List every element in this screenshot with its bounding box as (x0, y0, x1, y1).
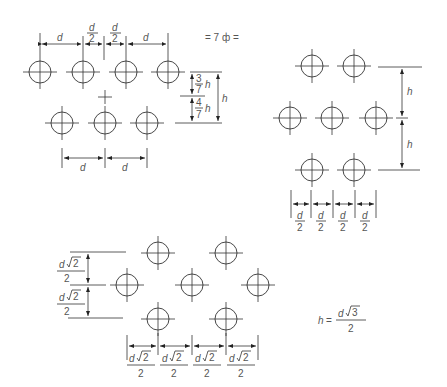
dim-label-d: d (143, 32, 149, 43)
svg-text:2: 2 (318, 222, 324, 233)
svg-text:2: 2 (362, 222, 368, 233)
dim-label-d-half-den: 2 (89, 33, 95, 44)
frac-d-sqrt2-half: d 2 2 (193, 351, 221, 379)
formula-h: h = d 3 2 (318, 306, 366, 334)
hole-icon (209, 236, 243, 270)
hole-icon (295, 153, 329, 187)
hole-icon (295, 49, 329, 83)
hole-icon (66, 55, 100, 89)
hole-icon (209, 302, 243, 336)
hole-icon (110, 268, 144, 302)
hole-icon (175, 268, 209, 302)
frac-7: 7 (196, 84, 202, 95)
panel-hex-rows: h h d 2 d 2 d 2 d (273, 49, 422, 233)
svg-text:d: d (162, 353, 168, 364)
formula-root-3: 3 (352, 307, 358, 318)
svg-text:d: d (340, 210, 346, 221)
panel-diamond: d 2 2 d 2 2 d 2 2 (57, 236, 275, 379)
formula-den-2: 2 (348, 323, 354, 334)
dim-label-d-half-num: d (89, 22, 95, 33)
frac-d-half: d 2 (295, 210, 305, 233)
dim-label-d: d (80, 162, 86, 173)
svg-text:2: 2 (143, 352, 149, 363)
svg-text:d: d (229, 353, 235, 364)
technical-diagram: d d 2 d 2 d = 7 ф = 3 7 h 4 7 h h (0, 0, 447, 387)
svg-text:=: = (326, 315, 332, 326)
svg-text:2: 2 (171, 368, 177, 379)
svg-text:d: d (195, 353, 201, 364)
formula-num-d: d (338, 308, 344, 319)
hole-icon (273, 101, 307, 135)
svg-text:2: 2 (73, 291, 79, 302)
svg-text:2: 2 (64, 306, 70, 317)
svg-text:d: d (129, 353, 135, 364)
dim-label-h: h (407, 139, 413, 150)
svg-text:d: d (318, 210, 324, 221)
svg-text:d: d (297, 210, 303, 221)
svg-text:2: 2 (297, 222, 303, 233)
frac-7: 7 (196, 109, 202, 120)
svg-text:d: d (362, 210, 368, 221)
hole-icon (141, 236, 175, 270)
hole-icon (141, 302, 175, 336)
frac-d-half: d 2 (360, 210, 370, 233)
svg-text:2: 2 (238, 368, 244, 379)
frac-d-sqrt2-half: d 2 2 (160, 351, 188, 379)
frac-d-half: d 2 (316, 210, 326, 233)
dim-label-h: h (222, 93, 228, 104)
frac-d-sqrt2-half: d 2 2 (127, 351, 155, 379)
frac-d-sqrt2-half: d 2 2 (57, 290, 85, 317)
formula-lhs-h: h (318, 315, 324, 326)
dim-label-d-half-den: 2 (112, 33, 118, 44)
hole-icon (45, 106, 79, 140)
svg-text:2: 2 (138, 368, 144, 379)
dim-label-d: d (122, 162, 128, 173)
dim-label-h: h (205, 79, 211, 90)
hole-icon (130, 106, 164, 140)
hole-icon (359, 101, 393, 135)
svg-text:2: 2 (204, 368, 210, 379)
hole-icon (315, 101, 349, 135)
frac-d-sqrt2-half: d 2 2 (227, 351, 255, 379)
svg-text:2: 2 (176, 352, 182, 363)
note-7-phi: = 7 ф = (205, 32, 239, 43)
svg-text:2: 2 (340, 222, 346, 233)
dim-label-h: h (407, 86, 413, 97)
panel-square-offset: d d 2 d 2 d = 7 ф = 3 7 h 4 7 h h (23, 22, 239, 173)
hole-icon (109, 55, 143, 89)
frac-d-half: d 2 (338, 210, 348, 233)
hole-icon (151, 55, 185, 89)
hole-icon (241, 268, 275, 302)
svg-text:2: 2 (209, 352, 215, 363)
dim-label-d: d (57, 32, 63, 43)
svg-text:2: 2 (73, 258, 79, 269)
svg-text:d: d (59, 292, 65, 303)
frac-3: 3 (196, 73, 202, 84)
frac-4: 4 (196, 97, 202, 108)
svg-text:2: 2 (243, 352, 249, 363)
frac-d-sqrt2-half: d 2 2 (57, 257, 85, 284)
center-mark-icon (98, 90, 112, 104)
hole-icon (337, 153, 371, 187)
svg-text:d: d (59, 259, 65, 270)
dim-label-d-half-num: d (112, 22, 118, 33)
hole-icon (23, 55, 57, 89)
hole-icon (88, 106, 122, 140)
hole-icon (337, 49, 371, 83)
svg-text:2: 2 (64, 273, 70, 284)
dim-label-h: h (205, 103, 211, 114)
